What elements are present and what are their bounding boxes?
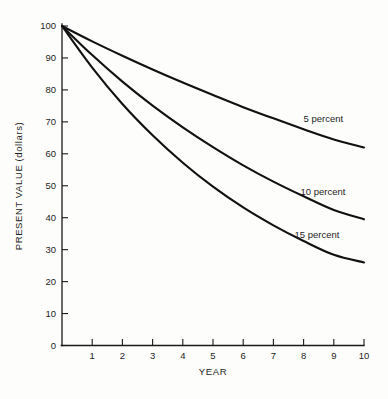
series-annotation-labels: 5 percent10 percent15 percent xyxy=(295,113,346,241)
x-axis-tick-labels: 12345678910 xyxy=(90,350,370,361)
series-label: 15 percent xyxy=(295,229,340,240)
x-tick-label: 9 xyxy=(331,350,336,361)
x-tick-label: 7 xyxy=(271,350,276,361)
y-tick-label: 50 xyxy=(45,180,56,191)
y-tick-label: 100 xyxy=(40,20,56,31)
y-tick-label: 0 xyxy=(51,340,56,351)
x-tick-label: 6 xyxy=(241,350,246,361)
y-tick-label: 10 xyxy=(45,308,56,319)
x-tick-label: 4 xyxy=(180,350,185,361)
series-label: 10 percent xyxy=(301,186,346,197)
x-tick-label: 10 xyxy=(359,350,370,361)
x-tick-label: 8 xyxy=(301,350,306,361)
y-tick-label: 70 xyxy=(45,116,56,127)
x-tick-label: 5 xyxy=(210,350,215,361)
y-tick-label: 40 xyxy=(45,212,56,223)
x-axis-title: YEAR xyxy=(199,366,227,377)
x-tick-label: 1 xyxy=(90,350,95,361)
x-axis-tick-group xyxy=(92,339,364,346)
y-axis-title: PRESENT VALUE (dollars) xyxy=(13,122,24,251)
series-curve xyxy=(62,26,364,262)
chart-page: 0102030405060708090100 12345678910 5 per… xyxy=(0,0,388,399)
y-axis-tick-group xyxy=(62,26,68,346)
y-tick-label: 30 xyxy=(45,244,56,255)
y-tick-label: 80 xyxy=(45,84,56,95)
x-tick-label: 2 xyxy=(120,350,125,361)
y-tick-label: 20 xyxy=(45,276,56,287)
x-tick-label: 3 xyxy=(150,350,155,361)
series-label: 5 percent xyxy=(304,113,344,124)
y-tick-label: 60 xyxy=(45,148,56,159)
curve-group xyxy=(62,26,364,262)
present-value-line-chart: 0102030405060708090100 12345678910 5 per… xyxy=(0,0,388,399)
y-axis-tick-labels: 0102030405060708090100 xyxy=(40,20,56,351)
y-tick-label: 90 xyxy=(45,52,56,63)
